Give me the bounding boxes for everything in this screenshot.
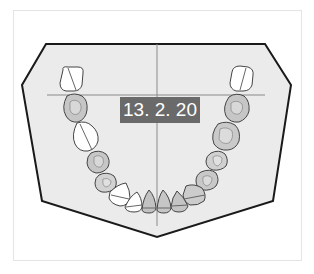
dental-arch-diagram [0, 0, 314, 274]
tooth-left-premolar-2[interactable] [87, 151, 109, 173]
tooth-left-molar-3[interactable] [60, 67, 83, 91]
tooth-right-molar-3[interactable] [230, 66, 253, 91]
tooth-right-premolar-2[interactable] [206, 151, 227, 170]
tooth-right-molar-2[interactable] [225, 94, 250, 122]
date-label: 13. 2. 20 [120, 97, 200, 123]
tooth-left-molar-2[interactable] [64, 94, 87, 122]
tooth-right-molar-1[interactable] [213, 122, 240, 150]
